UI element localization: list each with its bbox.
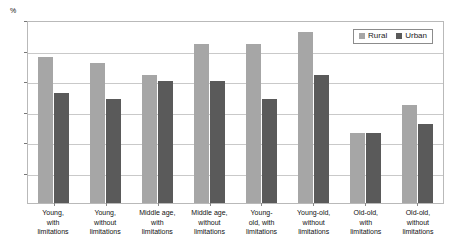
bar-group — [184, 22, 236, 203]
bar-rural — [298, 32, 313, 203]
y-axis-tick-mark — [24, 143, 27, 144]
x-axis-tick-mark — [54, 203, 55, 206]
legend-label-rural: Rural — [368, 32, 387, 40]
x-axis-category-7: Old-old,withlimitations — [340, 208, 392, 237]
bar-group — [80, 22, 132, 203]
x-axis-tick-mark — [210, 203, 211, 206]
x-axis-tick-mark — [313, 203, 314, 206]
bar-chart: % 051015202530 Rural Urban Young,withlim… — [0, 0, 451, 250]
bar-group — [236, 22, 288, 203]
bar-urban — [54, 93, 69, 203]
legend-swatch-rural — [359, 33, 365, 39]
bar-rural — [38, 57, 53, 203]
bar-urban — [210, 81, 225, 203]
x-axis-tick-mark — [106, 203, 107, 206]
x-axis-category-1: Young,withlimitations — [27, 208, 79, 237]
legend-swatch-urban — [396, 33, 402, 39]
y-axis-unit-label: % — [10, 7, 16, 14]
bar-rural — [142, 75, 157, 203]
bar-urban — [366, 133, 381, 203]
chart-legend: Rural Urban — [353, 29, 433, 44]
plot-area — [27, 21, 444, 204]
x-axis-tick-mark — [158, 203, 159, 206]
x-axis-category-3: Middle age,withlimitations — [131, 208, 183, 237]
bar-rural — [90, 63, 105, 203]
bar-group — [132, 22, 184, 203]
bar-urban — [106, 99, 121, 203]
y-axis-tick-mark — [24, 52, 27, 53]
x-axis-category-6: Young-old,withoutlimitations — [288, 208, 340, 237]
bar-group — [391, 22, 443, 203]
x-axis-tick-mark — [365, 203, 366, 206]
x-axis-category-4: Middle age,withoutlimitations — [183, 208, 235, 237]
bar-urban — [158, 81, 173, 203]
bar-urban — [262, 99, 277, 203]
bar-rural — [402, 105, 417, 203]
x-axis-category-2: Young,withoutlimitations — [79, 208, 131, 237]
y-axis-tick-mark — [24, 21, 27, 22]
bar-urban — [314, 75, 329, 203]
x-axis-tick-mark — [417, 203, 418, 206]
legend-label-urban: Urban — [405, 32, 427, 40]
bar-urban — [418, 124, 433, 203]
y-axis-tick-mark — [24, 82, 27, 83]
bar-rural — [194, 44, 209, 203]
y-axis-tick-mark — [24, 113, 27, 114]
chart-title-cropped — [0, 0, 451, 7]
x-axis-category-5: Young-old, withlimitations — [236, 208, 288, 237]
x-axis-tick-mark — [261, 203, 262, 206]
bar-group — [339, 22, 391, 203]
legend-item-urban: Urban — [396, 32, 427, 40]
bar-groups — [28, 22, 443, 203]
bar-rural — [246, 44, 261, 203]
legend-item-rural: Rural — [359, 32, 387, 40]
y-axis-tick-mark — [24, 174, 27, 175]
bar-group — [287, 22, 339, 203]
x-axis-category-labels: Young,withlimitationsYoung,withoutlimita… — [27, 208, 444, 237]
x-axis-category-8: Old-old,withoutlimitations — [392, 208, 444, 237]
bar-rural — [350, 133, 365, 203]
bar-group — [28, 22, 80, 203]
